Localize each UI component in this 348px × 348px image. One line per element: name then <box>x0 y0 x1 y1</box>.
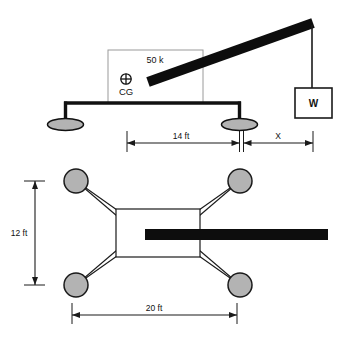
plan-pad-top-left <box>64 169 88 193</box>
boom-plan <box>145 229 328 240</box>
cg-icon <box>121 74 131 84</box>
outrigger-pad-right <box>222 119 258 131</box>
plan-pad-top-right <box>228 169 252 193</box>
dimension-12ft-label: 12 ft <box>11 228 28 238</box>
plan-pad-bottom-right <box>228 273 252 297</box>
plan-pad-bottom-left <box>64 273 88 297</box>
outrigger-pad-left <box>48 119 84 131</box>
crane-stability-diagram: 50 k CG W <box>0 0 348 348</box>
cg-label: CG <box>119 86 133 97</box>
dimension-14ft-label: 14 ft <box>173 131 190 141</box>
dimension-20ft-label: 20 ft <box>146 303 163 313</box>
weight-label: W <box>309 98 319 109</box>
load-label: 50 k <box>146 55 164 65</box>
dimension-x-label: X <box>275 131 281 141</box>
diagram-canvas: 50 k CG W <box>0 0 348 348</box>
